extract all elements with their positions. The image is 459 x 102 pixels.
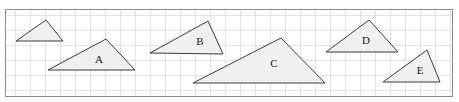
figure-canvas: ABCDE xyxy=(0,0,459,102)
triangle-c-label: C xyxy=(270,57,277,69)
triangles-grid-figure: ABCDE xyxy=(0,0,459,102)
triangle-a-label: A xyxy=(95,53,103,65)
grid-lines xyxy=(5,9,453,97)
triangle-d-label: D xyxy=(362,34,370,46)
triangle-e-label: E xyxy=(417,64,424,76)
triangle-b-label: B xyxy=(196,35,203,47)
